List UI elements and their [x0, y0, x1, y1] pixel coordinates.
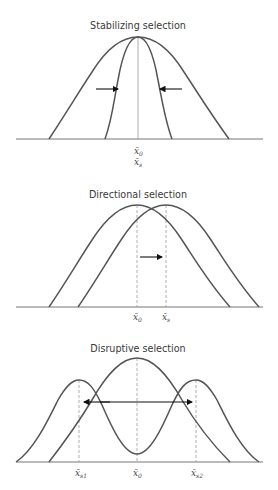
label-xs2: x̄s2	[191, 468, 203, 479]
label-x0: x̄0	[133, 468, 142, 479]
label-x0: x̄0	[134, 146, 143, 157]
original-distribution-curve	[49, 358, 230, 462]
panel-title: Disruptive selection	[90, 343, 185, 354]
panel-title: Directional selection	[89, 189, 187, 200]
label-xs1: x̄s1	[75, 468, 87, 479]
label-x0: x̄0	[133, 312, 142, 323]
selected-distribution-curve	[105, 37, 172, 139]
panel-disruptive: Disruptive selection x̄s1 x̄0 x̄s2	[16, 343, 263, 479]
label-xs: x̄s	[134, 157, 142, 168]
panel-stabilizing: Stabilizing selection x̄0 x̄s	[16, 20, 263, 168]
label-xs: x̄s	[162, 312, 170, 323]
panel-directional: Directional selection x̄0 x̄s	[16, 189, 263, 323]
bimodal-distribution-curve	[16, 380, 259, 462]
shifted-distribution-curve	[78, 205, 259, 307]
panel-title: Stabilizing selection	[90, 20, 186, 31]
selection-diagram: Stabilizing selection x̄0 x̄s Directiona…	[0, 0, 278, 490]
original-distribution-curve	[49, 205, 230, 307]
original-distribution-curve	[49, 37, 229, 139]
